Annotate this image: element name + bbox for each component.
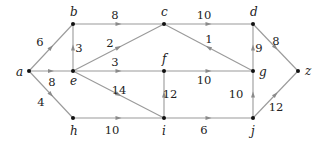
edge-weight: 4 (37, 95, 44, 109)
edge-weight: 6 (36, 35, 43, 49)
arrow-icon (206, 22, 212, 26)
node-label: g (259, 65, 267, 79)
node-i (162, 116, 166, 120)
arrow-icon (206, 116, 212, 120)
arrow-icon (116, 69, 122, 73)
edge-weight: 10 (197, 8, 212, 22)
edge-weight: 10 (197, 73, 212, 87)
node-j (251, 116, 255, 120)
node-label: a (16, 65, 23, 79)
node-c (162, 22, 166, 26)
edge-weight: 8 (48, 75, 55, 89)
node-label: b (70, 5, 78, 19)
node-label: d (250, 5, 258, 19)
node-e (71, 69, 75, 73)
edge-weight: 10 (105, 123, 120, 137)
node-label: z (304, 64, 312, 78)
arrow-icon (251, 92, 255, 98)
edge-weight: 6 (200, 123, 207, 137)
graph-diagram: 6848323141011098121061012 abcdefgzhij (0, 0, 328, 141)
arrow-icon (48, 69, 54, 73)
edge-weight: 9 (255, 41, 262, 55)
node-label: c (161, 5, 168, 19)
node-h (71, 116, 75, 120)
edge-weight: 3 (75, 41, 82, 55)
edge-weight: 1 (205, 32, 212, 46)
node-label: e (70, 74, 77, 88)
edge-weight: 8 (111, 8, 118, 22)
node-label: j (248, 124, 255, 138)
arrow-icon (206, 46, 212, 51)
node-label: h (70, 124, 78, 138)
node-label: i (162, 124, 166, 138)
edge-weight: 12 (163, 87, 178, 101)
edge-weight: 10 (229, 87, 244, 101)
node-z (296, 69, 300, 73)
node-b (71, 22, 75, 26)
node-f (162, 69, 166, 73)
arrow-icon (116, 22, 122, 26)
node-a (27, 69, 31, 73)
arrow-icon (116, 116, 122, 120)
edge-weight: 12 (269, 100, 284, 114)
node-label: f (161, 52, 169, 66)
edge-weight: 3 (111, 55, 118, 69)
node-d (251, 22, 255, 26)
edge-weight: 2 (106, 36, 113, 50)
node-g (251, 69, 255, 73)
edge-weight: 8 (272, 34, 279, 48)
arrow-icon (115, 46, 121, 51)
edge-weight: 14 (112, 83, 127, 97)
